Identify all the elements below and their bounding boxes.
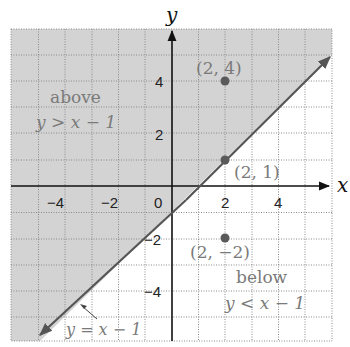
y-axis-label: y (165, 3, 178, 27)
x-tick-4: 4 (274, 194, 282, 211)
x-tick--2: −2 (101, 194, 118, 211)
region-ineq-below: y < x − 1 (224, 293, 305, 313)
x-tick--4: −4 (47, 194, 64, 211)
point-label-2-4: (2, 4) (196, 58, 242, 78)
x-axis-label: x (337, 173, 348, 197)
x-tick-2: 2 (221, 194, 229, 211)
region-ineq-above: y > x − 1 (35, 112, 116, 132)
y-tick--4: −4 (144, 283, 161, 300)
line-equation-label: y = x − 1 (65, 320, 141, 339)
y-tick-2: 2 (155, 126, 163, 143)
region-label-above: above (50, 87, 101, 107)
region-label-below: below (236, 267, 288, 287)
y-tick-4: 4 (155, 73, 163, 90)
point-2-1 (221, 156, 230, 165)
point-label-2-neg2: (2, −2) (190, 242, 250, 262)
graph: y x −4 −2 0 2 4 4 2 −2 −4 (2, 4) (2, 1) … (0, 0, 350, 347)
x-tick-0: 0 (154, 194, 162, 211)
y-tick--2: −2 (144, 231, 161, 248)
point-label-2-1: (2, 1) (234, 162, 280, 182)
